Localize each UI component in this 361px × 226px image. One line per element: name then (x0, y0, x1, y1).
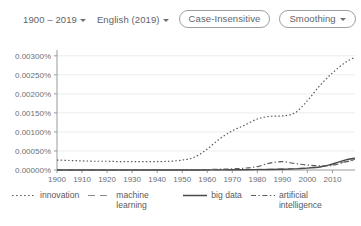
chevron-down-icon (163, 19, 169, 22)
svg-text:0.00050%: 0.00050% (15, 147, 51, 156)
svg-text:1940: 1940 (148, 175, 166, 184)
year-range-dropdown[interactable]: 1900 – 2019 (22, 12, 87, 27)
svg-text:0.00250%: 0.00250% (15, 71, 51, 80)
case-insensitive-toggle[interactable]: Case-Insensitive (179, 10, 271, 29)
corpus-dropdown[interactable]: English (2019) (96, 12, 170, 27)
svg-text:1990: 1990 (273, 175, 291, 184)
series-line-big-data[interactable] (57, 158, 355, 170)
legend-item-big-data[interactable]: big data (183, 190, 242, 200)
legend-swatch-dashed (88, 191, 112, 200)
svg-text:1960: 1960 (198, 175, 216, 184)
series-lines[interactable] (57, 57, 355, 170)
legend-item-machine-learning[interactable]: machine learning (88, 190, 174, 210)
case-insensitive-label: Case-Insensitive (189, 14, 261, 24)
chevron-down-icon (80, 19, 86, 22)
chart-legend: innovation machine learning big data art… (0, 190, 361, 210)
svg-text:1930: 1930 (123, 175, 141, 184)
svg-text:1910: 1910 (73, 175, 91, 184)
svg-text:2010: 2010 (324, 175, 342, 184)
chart-canvas[interactable]: 0.00000%0.00050%0.00100%0.00150%0.00200%… (0, 38, 361, 188)
corpus-label: English (2019) (97, 14, 160, 25)
legend-swatch-dotted (12, 191, 36, 200)
grid-lines (57, 56, 355, 151)
svg-text:0.00000%: 0.00000% (15, 166, 51, 175)
svg-text:1920: 1920 (98, 175, 116, 184)
legend-item-innovation[interactable]: innovation (12, 190, 79, 200)
legend-label-innovation: innovation (40, 190, 79, 200)
svg-text:0.00150%: 0.00150% (15, 109, 51, 118)
smoothing-label: Smoothing (289, 14, 335, 24)
chevron-down-icon (340, 18, 346, 21)
svg-text:1900: 1900 (48, 175, 66, 184)
svg-text:0.00200%: 0.00200% (15, 90, 51, 99)
legend-label-machine-learning: machine learning (116, 190, 174, 210)
y-axis-ticks: 0.00000%0.00050%0.00100%0.00150%0.00200%… (15, 52, 57, 175)
svg-text:0.00100%: 0.00100% (15, 128, 51, 137)
smoothing-dropdown[interactable]: Smoothing (279, 10, 355, 29)
legend-swatch-dashdot (251, 191, 275, 200)
ngram-toolbar: 1900 – 2019 English (2019) Case-Insensit… (0, 0, 361, 38)
legend-item-artificial-intelligence[interactable]: artificial intelligence (251, 190, 349, 210)
axes (57, 50, 355, 170)
svg-text:0.00300%: 0.00300% (15, 52, 51, 61)
year-range-label: 1900 – 2019 (23, 14, 77, 25)
legend-swatch-solid (183, 191, 207, 200)
ngram-chart[interactable]: 0.00000%0.00050%0.00100%0.00150%0.00200%… (0, 38, 361, 188)
svg-text:1950: 1950 (173, 175, 191, 184)
x-axis-ticks: 1900191019201930194019501960197019801990… (48, 170, 342, 184)
svg-text:1980: 1980 (248, 175, 266, 184)
legend-label-artificial-intelligence: artificial intelligence (279, 190, 349, 210)
series-line-innovation[interactable] (57, 57, 355, 161)
legend-label-big-data: big data (211, 190, 242, 200)
svg-text:1970: 1970 (223, 175, 241, 184)
svg-text:2000: 2000 (299, 175, 317, 184)
